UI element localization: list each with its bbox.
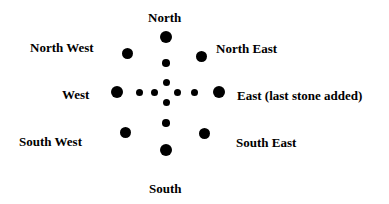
stone-north-outer-small	[162, 59, 170, 67]
stone-east-outer-small	[191, 89, 198, 96]
label-north: North	[148, 11, 181, 24]
stone-west-large	[111, 86, 123, 98]
label-east-last-stone: East (last stone added)	[237, 89, 362, 102]
stone-west-outer-small	[136, 89, 143, 96]
stone-south-west-large	[120, 127, 131, 138]
stone-north-inner-small	[163, 79, 170, 86]
compass-stone-diagram: North North West North East West East (l…	[0, 0, 389, 204]
stone-north-west-large	[122, 48, 133, 59]
stone-west-inner-small	[151, 89, 158, 96]
stone-north-large	[160, 31, 172, 43]
stone-north-east-large	[196, 51, 207, 62]
label-west: West	[62, 88, 89, 101]
stone-south-inner-small	[163, 99, 170, 106]
stone-east-large	[213, 86, 225, 98]
stone-south-east-large	[199, 128, 210, 139]
stone-east-inner-small	[174, 89, 181, 96]
label-north-west: North West	[30, 41, 94, 54]
label-north-east: North East	[216, 42, 277, 55]
label-south: South	[149, 182, 182, 195]
stone-south-large	[160, 144, 172, 156]
stone-south-outer-small	[162, 119, 170, 127]
label-south-west: South West	[19, 135, 82, 148]
label-south-east: South East	[236, 136, 296, 149]
